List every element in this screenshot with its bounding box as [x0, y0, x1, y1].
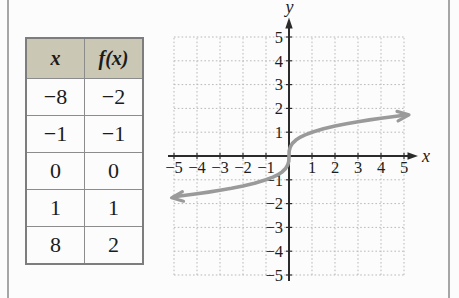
col-header-x: x	[26, 38, 85, 79]
x-tick-label: −2	[234, 158, 252, 177]
x-tick-label: −3	[211, 158, 229, 177]
y-tick-label: −3	[265, 218, 283, 237]
x-axis-label: x	[421, 146, 430, 166]
x-tick-label: 3	[354, 158, 362, 177]
x-tick-label: 1	[308, 158, 316, 177]
y-tick-label: −2	[265, 194, 283, 213]
y-tick-label: −5	[265, 266, 283, 285]
table-row: 8 2	[26, 227, 143, 265]
x-tick-label: 2	[331, 158, 339, 177]
values-table: x f(x) −8 −2 −1 −1 0 0 1 1 8 2	[25, 37, 144, 265]
x-axis-arrow-icon	[408, 152, 419, 159]
table-header-row: x f(x)	[26, 38, 143, 79]
y-tick-label: 1	[275, 123, 283, 142]
fx-value: −1	[85, 116, 144, 153]
x-value: −1	[26, 116, 85, 153]
fx-value: 0	[85, 153, 144, 190]
table-row: −8 −2	[26, 79, 143, 116]
x-value: 8	[26, 227, 85, 265]
y-tick-label: −4	[265, 242, 283, 261]
x-tick-label: 5	[400, 158, 408, 177]
y-axis-label: y	[284, 0, 294, 17]
table-row: 1 1	[26, 190, 143, 227]
y-axis-arrow-icon	[285, 18, 292, 29]
fx-value: 2	[85, 227, 144, 265]
fx-value: 1	[85, 190, 144, 227]
y-tick-label: 5	[275, 28, 283, 47]
x-value: 1	[26, 190, 85, 227]
x-value: 0	[26, 153, 85, 190]
y-tick-label: 4	[275, 52, 283, 71]
x-value: −8	[26, 79, 85, 116]
y-tick-label: 3	[275, 75, 283, 94]
figure-panel: { "table": { "headers": ["x", "f(x)"], "…	[0, 0, 459, 298]
col-header-fx: f(x)	[85, 38, 144, 79]
frame-left-border	[7, 0, 9, 298]
x-tick-label: 4	[377, 158, 385, 177]
graph-svg: −5−4−3−2−112345 54321−1−2−3−4−5 x y	[160, 0, 450, 298]
x-tick-label: −4	[188, 158, 206, 177]
table-row: 0 0	[26, 153, 143, 190]
fx-value: −2	[85, 79, 144, 116]
table-row: −1 −1	[26, 116, 143, 153]
y-tick-label: 2	[275, 99, 283, 118]
x-tick-label: −5	[165, 158, 183, 177]
